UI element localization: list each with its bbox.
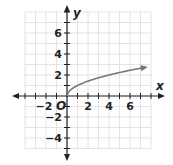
y-tick-label: 6 — [54, 27, 62, 40]
origin-label: O — [56, 99, 66, 113]
y-axis-down-arrow-icon — [64, 154, 70, 161]
x-axis-left-arrow-icon — [12, 93, 19, 99]
grid-lines — [25, 12, 151, 149]
y-tick-label: −4 — [45, 132, 62, 145]
curve-arrow-icon — [140, 65, 147, 71]
sqrt-curve — [67, 67, 146, 96]
coordinate-plane: −2246−4−2246 x y O — [0, 0, 173, 165]
x-tick-label: 6 — [126, 100, 134, 113]
y-tick-label: 4 — [54, 48, 62, 61]
x-axis-label: x — [155, 79, 165, 93]
x-tick-label: 4 — [105, 100, 113, 113]
y-axis-label: y — [73, 6, 82, 20]
y-tick-label: 2 — [54, 69, 62, 82]
y-axis-up-arrow-icon — [64, 5, 70, 12]
x-axis-right-arrow-icon — [158, 93, 165, 99]
x-tick-label: 2 — [84, 100, 92, 113]
